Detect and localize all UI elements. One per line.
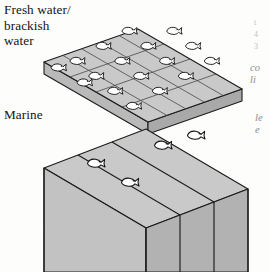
- freshwater-brackish-label: Fresh water/ brackish water: [4, 2, 71, 49]
- margin-text-fragment-lower: le e: [255, 112, 263, 136]
- marine-label: Marine: [4, 107, 43, 123]
- figure-page: Fresh water/ brackish water Marine t 4 3…: [0, 0, 270, 272]
- margin-text-fragment-middle: co li: [250, 62, 260, 86]
- margin-text-fragment-top: t 4 3: [254, 17, 258, 53]
